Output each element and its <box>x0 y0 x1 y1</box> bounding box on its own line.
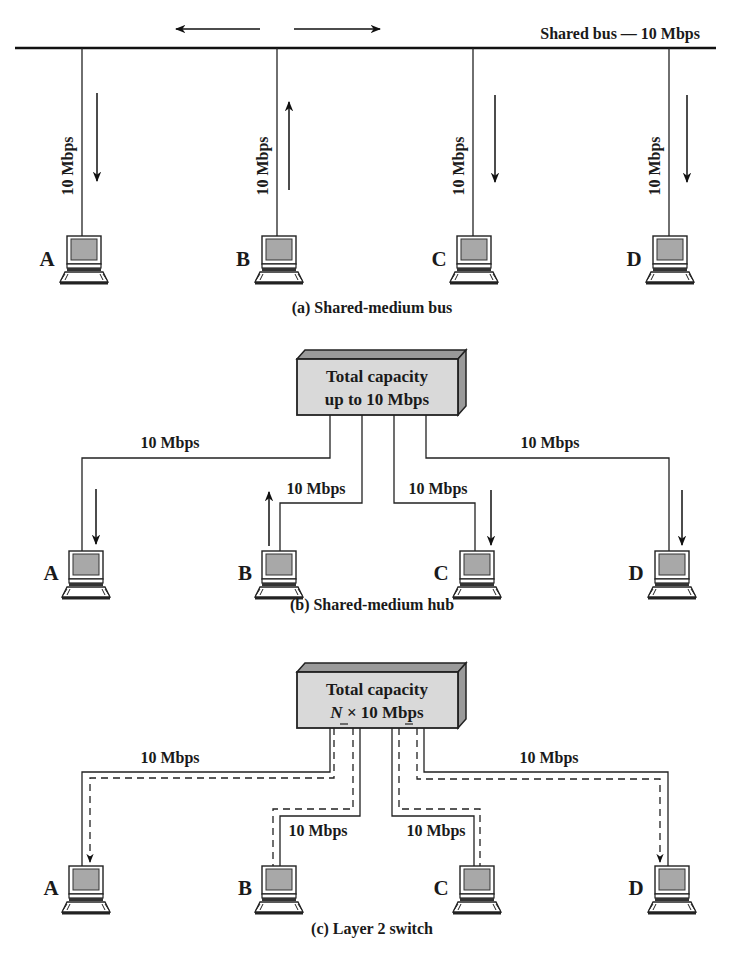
link-rate-c: 10 Mbps <box>406 822 465 840</box>
computer-icon <box>255 236 303 285</box>
link-rate-c: 10 Mbps <box>450 136 468 195</box>
station-label-a: A <box>43 561 59 585</box>
network-diagram: Shared bus — 10 Mbps 10 Mbps 10 Mbps 10 … <box>0 0 743 966</box>
hub-device: Total capacity up to 10 Mbps <box>297 350 466 415</box>
caption-c: (c) Layer 2 switch <box>311 920 433 938</box>
switch-capacity-line2: N × 10 Mbps <box>329 703 424 722</box>
computer-icon <box>255 866 303 915</box>
station-label-c: C <box>433 561 448 585</box>
computer-icon <box>60 236 108 285</box>
link-rate-a: 10 Mbps <box>140 749 199 767</box>
station-label-b: B <box>236 247 250 271</box>
computer-icon <box>62 551 110 600</box>
station-label-d: D <box>628 561 643 585</box>
station-label-d: D <box>626 247 641 271</box>
link-rate-b: 10 Mbps <box>286 480 345 498</box>
link-rate-d: 10 Mbps <box>519 749 578 767</box>
caption-b: (b) Shared-medium hub <box>290 596 454 614</box>
computer-icon <box>453 866 501 915</box>
hub-capacity-line2: up to 10 Mbps <box>325 390 430 409</box>
computer-icon <box>646 236 694 285</box>
station-label-d: D <box>628 876 643 900</box>
link-rate-b: 10 Mbps <box>288 822 347 840</box>
computer-icon <box>453 551 501 600</box>
station-label-c: C <box>431 247 446 271</box>
link-rate-a: 10 Mbps <box>59 136 77 195</box>
station-label-c: C <box>433 876 448 900</box>
panel-b-shared-hub: Total capacity up to 10 Mbps 10 Mbps 10 … <box>43 350 696 614</box>
station-label-b: B <box>238 561 252 585</box>
hub-capacity-line1: Total capacity <box>326 367 428 386</box>
computer-icon <box>62 866 110 915</box>
link-rate-d: 10 Mbps <box>646 136 664 195</box>
dashed-path-b-to-a <box>90 728 334 862</box>
switch-device: Total capacity N × 10 Mbps <box>297 663 466 728</box>
link-rate-a: 10 Mbps <box>140 434 199 452</box>
switch-capacity-line1: Total capacity <box>326 680 428 699</box>
station-label-a: A <box>43 876 59 900</box>
panel-c-layer2-switch: Total capacity N × 10 Mbps 10 Mbps 10 Mb… <box>43 663 696 938</box>
link-rate-b: 10 Mbps <box>254 136 272 195</box>
computer-icon <box>450 236 498 285</box>
station-label-a: A <box>39 247 55 271</box>
computer-icon <box>648 551 696 600</box>
panel-a-shared-bus: Shared bus — 10 Mbps 10 Mbps 10 Mbps 10 … <box>15 25 716 317</box>
link-rate-d: 10 Mbps <box>520 434 579 452</box>
caption-a: (a) Shared-medium bus <box>292 299 453 317</box>
computer-icon <box>648 866 696 915</box>
station-label-b: B <box>238 876 252 900</box>
link-rate-c: 10 Mbps <box>408 480 467 498</box>
bus-label: Shared bus — 10 Mbps <box>540 25 700 43</box>
computer-icon <box>255 551 303 600</box>
